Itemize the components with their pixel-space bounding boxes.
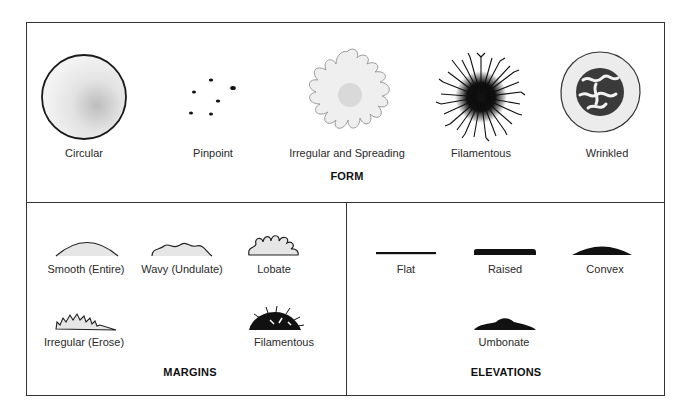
margin-label-smooth: Smooth (Entire) xyxy=(47,263,124,275)
form-label-filamentous: Filamentous xyxy=(451,147,511,159)
margin-label-lobate: Lobate xyxy=(257,263,291,275)
filamentous-margin-icon xyxy=(249,306,304,330)
diagram-artwork xyxy=(0,0,689,413)
form-label-circular: Circular xyxy=(65,147,103,159)
elevations-title: ELEVATIONS xyxy=(471,366,542,378)
form-label-wrinkled: Wrinkled xyxy=(586,147,629,159)
circular-colony-icon xyxy=(42,55,126,139)
umbonate-elevation-icon xyxy=(474,318,536,330)
form-title: FORM xyxy=(330,170,363,182)
form-label-pinpoint: Pinpoint xyxy=(193,147,233,159)
elevation-label-raised: Raised xyxy=(488,263,522,275)
elevation-label-umbonate: Umbonate xyxy=(479,336,530,348)
irregular-margin-icon xyxy=(56,314,116,330)
pinpoint-colony-icon xyxy=(189,78,236,115)
margin-label-wavy: Wavy (Undulate) xyxy=(141,263,223,275)
margins-title: MARGINS xyxy=(163,366,216,378)
convex-elevation-icon xyxy=(572,247,632,256)
margin-label-irregular: Irregular (Erose) xyxy=(44,336,124,348)
flat-elevation-icon xyxy=(376,252,436,254)
raised-elevation-icon xyxy=(474,249,536,255)
elevation-label-convex: Convex xyxy=(586,263,623,275)
wrinkled-colony-icon xyxy=(561,52,640,132)
smooth-margin-icon xyxy=(56,243,118,257)
filamentous-colony-icon xyxy=(436,53,525,141)
elevation-label-flat: Flat xyxy=(397,263,415,275)
wavy-margin-icon xyxy=(152,243,212,256)
form-label-irregular-spreading: Irregular and Spreading xyxy=(289,147,405,159)
lobate-margin-icon xyxy=(249,236,298,255)
margin-label-filamentous: Filamentous xyxy=(254,336,314,348)
irregular-spreading-colony-icon xyxy=(309,49,389,128)
